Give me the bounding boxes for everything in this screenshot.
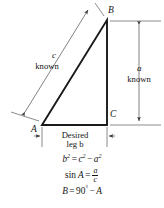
formula-pythagorean: b2=c2−a2 — [0, 152, 164, 167]
c-extension-line-top — [95, 3, 104, 16]
vertex-label-B: B — [108, 6, 114, 16]
formula-angle-b: B=90°−A — [0, 184, 164, 199]
formula-angle-b-minus: − — [88, 186, 96, 196]
formula-sine: sinA=ac — [0, 167, 164, 184]
formula-pythagorean-rhs-sup2: 2 — [99, 152, 102, 159]
formula-angle-b-rhs: A — [96, 186, 102, 196]
vertex-label-A: A — [31, 125, 37, 135]
formula-block: b2=c2−a2 sinA=ac B=90°−A — [0, 152, 164, 199]
triangle-outline — [42, 20, 107, 125]
c-extension-line-bottom — [11, 112, 39, 121]
base-desired-line2: leg b — [48, 140, 102, 149]
vertical-leg-known-label: known — [118, 75, 160, 84]
formula-sine-function: sin — [65, 170, 76, 180]
hypotenuse-variable-label: c — [52, 51, 56, 60]
formula-angle-b-equals: = — [68, 186, 76, 196]
vertex-label-C: C — [110, 110, 116, 120]
figure-container: B C A c known a known Desired leg b b2=c… — [0, 0, 164, 208]
formula-angle-b-value: 90 — [76, 186, 85, 196]
vertical-leg-variable-label: a — [137, 64, 142, 73]
formula-sine-denominator: c — [92, 176, 98, 184]
formula-angle-b-lhs: B — [62, 186, 68, 196]
triangle-path — [42, 20, 107, 125]
formula-pythagorean-minus: − — [86, 154, 94, 164]
formula-sine-equals: = — [84, 170, 92, 180]
hypotenuse-known-label: known — [26, 62, 68, 71]
formula-sine-fraction: ac — [92, 167, 98, 185]
formula-sine-numerator: a — [92, 167, 98, 175]
dimension-a — [110, 21, 161, 125]
formula-sine-angle: A — [78, 170, 84, 180]
